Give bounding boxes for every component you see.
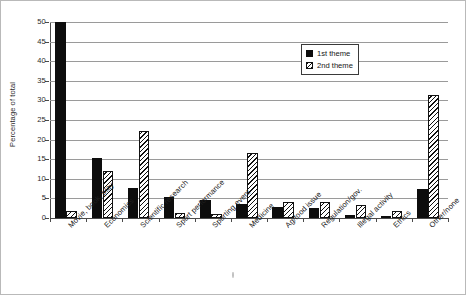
y-axis-ticks: 05101520253035404550 bbox=[0, 0, 46, 296]
bar-group bbox=[376, 22, 412, 218]
y-tick-label: 15 bbox=[6, 155, 46, 163]
y-tick-label: 45 bbox=[6, 38, 46, 46]
bar-series2 bbox=[139, 131, 150, 218]
bar-series1 bbox=[55, 22, 66, 218]
bar-series1 bbox=[417, 189, 428, 218]
x-tick-mark bbox=[267, 218, 268, 222]
y-tick-label: 35 bbox=[6, 77, 46, 85]
bar-series1 bbox=[381, 216, 392, 218]
bar-series1 bbox=[309, 208, 320, 218]
legend-label: 1st theme bbox=[317, 50, 350, 58]
chart-legend: 1st theme 2nd theme bbox=[301, 44, 359, 75]
y-tick-label: 5 bbox=[6, 194, 46, 202]
x-tick-mark bbox=[159, 218, 160, 222]
x-tick-mark bbox=[412, 218, 413, 222]
y-tick-label: 20 bbox=[6, 136, 46, 144]
x-tick-mark bbox=[339, 218, 340, 222]
x-tick-mark bbox=[122, 218, 123, 222]
x-tick-mark bbox=[86, 218, 87, 222]
bar-group bbox=[50, 22, 86, 218]
legend-swatch-solid-icon bbox=[306, 50, 313, 57]
y-tick-label: 0 bbox=[6, 214, 46, 222]
y-tick-label: 30 bbox=[6, 96, 46, 104]
scan-artifact bbox=[232, 272, 234, 278]
y-tick-label: 10 bbox=[6, 175, 46, 183]
bar-series1 bbox=[345, 215, 356, 218]
bar-series2 bbox=[247, 153, 258, 218]
bar-group bbox=[231, 22, 267, 218]
bar-group bbox=[267, 22, 303, 218]
bar-group bbox=[412, 22, 448, 218]
x-tick-mark bbox=[303, 218, 304, 222]
legend-item-1st-theme: 1st theme bbox=[306, 48, 353, 59]
y-tick-label: 50 bbox=[6, 18, 46, 26]
x-tick-mark bbox=[448, 218, 449, 222]
legend-label: 2nd theme bbox=[317, 62, 353, 70]
x-tick-mark bbox=[195, 218, 196, 222]
x-tick-mark bbox=[376, 218, 377, 222]
y-tick-label: 40 bbox=[6, 57, 46, 65]
y-tick-label: 25 bbox=[6, 116, 46, 124]
bar-chart: Percentage of total 05101520253035404550… bbox=[0, 0, 467, 296]
bar-group bbox=[122, 22, 158, 218]
legend-item-2nd-theme: 2nd theme bbox=[306, 60, 353, 71]
x-tick-mark bbox=[50, 218, 51, 222]
x-tick-mark bbox=[231, 218, 232, 222]
bar-series2 bbox=[428, 95, 439, 218]
legend-swatch-hatch-icon bbox=[306, 62, 313, 69]
